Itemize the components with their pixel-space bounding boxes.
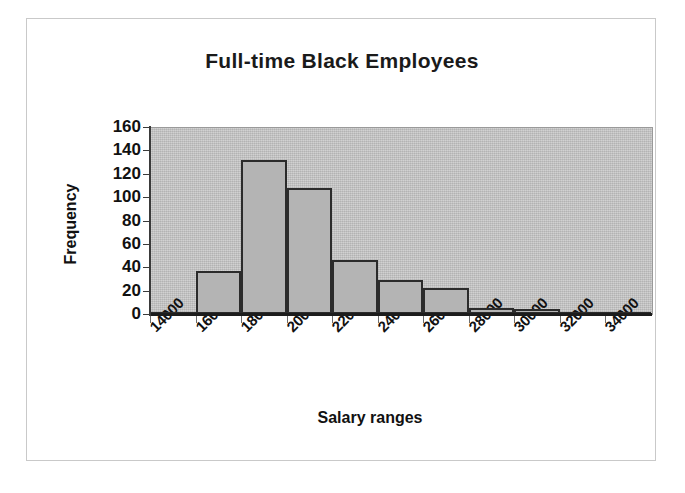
x-axis-tick bbox=[378, 315, 379, 323]
x-axis-tick bbox=[560, 315, 561, 323]
y-axis-tick-labels: 020406080100120140160 bbox=[79, 19, 141, 462]
y-axis-tick-label: 120 bbox=[83, 165, 141, 182]
y-axis-tick-label: 40 bbox=[83, 258, 141, 275]
x-axis-tick bbox=[332, 315, 333, 323]
y-axis-tick bbox=[143, 127, 150, 128]
chart-frame: Full-time Black Employees 02040608010012… bbox=[26, 18, 656, 461]
y-axis-tick bbox=[143, 174, 150, 175]
y-axis-tick-label: 160 bbox=[83, 118, 141, 135]
y-axis-tick-label: 140 bbox=[83, 141, 141, 158]
x-axis-tick bbox=[423, 315, 424, 323]
x-axis-tick bbox=[150, 315, 151, 323]
y-axis-tick-label: 20 bbox=[83, 282, 141, 299]
chart-figure: Full-time Black Employees 02040608010012… bbox=[0, 0, 685, 493]
x-axis-title: Salary ranges bbox=[150, 409, 590, 427]
x-axis-tick bbox=[241, 315, 242, 323]
y-axis-tick bbox=[143, 267, 150, 268]
y-axis-tick bbox=[143, 244, 150, 245]
zero-baseline bbox=[150, 313, 652, 316]
x-axis-tick bbox=[196, 315, 197, 323]
bar bbox=[423, 288, 469, 314]
x-axis-tick bbox=[287, 315, 288, 323]
y-axis-tick bbox=[143, 314, 150, 315]
y-axis-tick-label: 60 bbox=[83, 235, 141, 252]
y-axis-tick-label: 0 bbox=[83, 305, 141, 322]
bar bbox=[196, 271, 242, 314]
bar bbox=[287, 188, 333, 314]
y-axis-tick bbox=[143, 291, 150, 292]
bar-series bbox=[150, 127, 651, 314]
x-axis-tick bbox=[605, 315, 606, 323]
y-axis-tick bbox=[143, 150, 150, 151]
y-axis-tick-label: 80 bbox=[83, 212, 141, 229]
y-axis-title: Frequency bbox=[62, 154, 80, 294]
y-axis-tick bbox=[143, 197, 150, 198]
x-axis-tick bbox=[469, 315, 470, 323]
y-axis-tick-label: 100 bbox=[83, 188, 141, 205]
x-axis-tick-labels: 1400016000180002000022000240002600028000… bbox=[150, 323, 651, 413]
bar bbox=[378, 280, 424, 314]
y-axis-tick bbox=[143, 221, 150, 222]
x-axis-tick bbox=[514, 315, 515, 323]
bar bbox=[332, 260, 378, 314]
bar bbox=[241, 160, 287, 314]
